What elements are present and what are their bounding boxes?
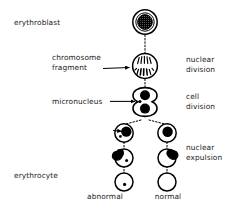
label-abnormal: abnormal bbox=[87, 192, 123, 201]
label-normal: normal bbox=[155, 192, 182, 201]
cell-division-nucleus-lower bbox=[140, 104, 150, 114]
label-chromosome-fragment-line1: chromosome bbox=[52, 53, 101, 62]
cell-division-nucleus-upper bbox=[140, 90, 150, 100]
erythrocyte-normal-membrane bbox=[158, 173, 176, 191]
daughter-normal-nucleus bbox=[162, 127, 172, 137]
diagram-canvas: erythroblast chromosome fragment micronu… bbox=[0, 0, 240, 205]
connector-branch-left bbox=[126, 120, 141, 124]
stage-expulsion-abnormal bbox=[112, 149, 133, 167]
label-cell-division-line1: cell bbox=[186, 92, 199, 101]
stage-erythrocyte-abnormal bbox=[115, 173, 133, 191]
daughter-abnormal-micronucleus-icon bbox=[119, 135, 122, 138]
stage-daughter-abnormal bbox=[115, 124, 133, 142]
label-erythroblast: erythroblast bbox=[14, 18, 60, 27]
daughter-abnormal-nucleus bbox=[121, 126, 131, 136]
erythroblast-nucleus-icon bbox=[138, 15, 153, 30]
erythrocyte-abnormal-micronucleus-icon bbox=[123, 183, 126, 186]
erythropoiesis-diagram: erythroblast chromosome fragment micronu… bbox=[0, 0, 240, 205]
label-nuclear-division-line2: division bbox=[186, 65, 215, 74]
erythrocyte-abnormal-membrane bbox=[115, 173, 133, 191]
stage-erythroblast bbox=[133, 10, 157, 34]
expelled-nucleus-normal-lobe bbox=[166, 149, 174, 157]
label-nuclear-expulsion-line1: nuclear bbox=[186, 143, 215, 152]
stage-erythrocyte-normal bbox=[158, 173, 176, 191]
stage-expulsion-normal bbox=[158, 149, 178, 167]
label-nuclear-expulsion-line2: expulsion bbox=[186, 153, 222, 162]
stage-daughter-normal bbox=[158, 124, 176, 142]
micronucleus-icon bbox=[139, 100, 142, 103]
pointer-arrows bbox=[103, 68, 135, 132]
label-micronucleus: micronucleus bbox=[52, 97, 103, 106]
expulsion-abnormal-micronucleus-icon bbox=[125, 159, 128, 162]
connector-branch-right bbox=[149, 120, 165, 124]
label-cell-division-line2: division bbox=[186, 102, 215, 111]
stage-nuclear-division bbox=[133, 54, 158, 79]
label-erythrocyte: erythrocyte bbox=[14, 171, 58, 180]
stage-cell-division bbox=[133, 88, 157, 117]
label-chromosome-fragment-line2: fragment bbox=[52, 63, 87, 72]
expelled-nucleus-abnormal-lobe bbox=[116, 149, 124, 157]
arrow-chromosome-fragment bbox=[103, 68, 130, 69]
label-nuclear-division-line1: nuclear bbox=[186, 55, 215, 64]
